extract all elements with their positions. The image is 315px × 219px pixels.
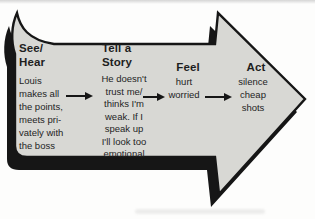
flow-arrow-icon [143,96,157,98]
flow-arrow-icon [66,95,85,97]
column-heading-act: Act [234,61,278,75]
column-body-feel: hurt worried [159,75,209,101]
flow-arrow-icon [205,96,224,98]
column-body-act: silence cheap shots [228,75,278,114]
column-heading-see-hear: See/ Hear [19,42,45,69]
column-heading-tell-a-story: Tell a Story [102,42,132,69]
column-body-tell-a-story: He doesn't trust me/ thinks I'm weak. If… [94,73,154,161]
column-heading-feel: Feel [166,61,210,75]
flow-diagram: See/ Hear Louis makes all the points, me… [0,0,315,219]
column-body-see-hear: Louis makes all the points, meets pri- v… [19,74,77,152]
scan-bleed-smudge [135,209,265,214]
scan-edge-band [0,0,315,4]
